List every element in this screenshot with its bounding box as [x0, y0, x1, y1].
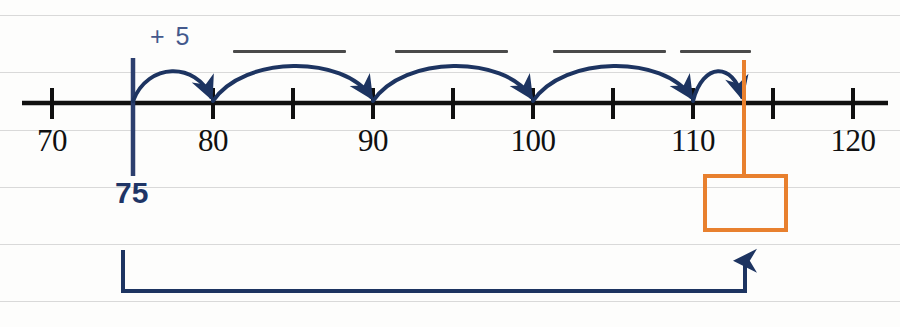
axis-tick-label-90: 90	[358, 123, 388, 159]
axis-tick-label-110: 110	[671, 123, 715, 159]
answer-blank-line[interactable]	[553, 50, 666, 53]
axis-tick-label-70: 70	[37, 123, 67, 159]
answer-blank-line[interactable]	[395, 50, 508, 53]
worksheet-canvas: + 5 70 80 90 100 110 120 75	[0, 0, 900, 327]
axis-tick-label-100: 100	[511, 123, 556, 159]
answer-blank-line[interactable]	[680, 50, 751, 53]
total-bracket	[123, 250, 745, 291]
jump-arc-110-113	[693, 71, 742, 101]
axis-tick-label-80: 80	[198, 123, 228, 159]
answer-blank-line[interactable]	[233, 50, 346, 53]
jump-arcs	[133, 66, 742, 101]
step-size-label: + 5	[150, 22, 191, 51]
answer-box[interactable]	[703, 174, 788, 232]
axis-tick-label-120: 120	[831, 123, 876, 159]
jump-arc-75-80	[133, 71, 211, 101]
start-value-label: 75	[115, 176, 148, 210]
